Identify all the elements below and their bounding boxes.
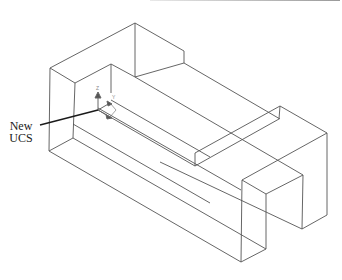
ucs-y-label: Y — [112, 94, 116, 100]
wireframe-edges — [49, 23, 327, 262]
wireframe-drawing: Z Y — [0, 0, 342, 280]
ucs-z-label: Z — [96, 85, 99, 91]
callout-leader-line — [40, 110, 98, 125]
z-axis-arrow-icon — [95, 92, 101, 98]
y-axis-arrow-icon — [107, 101, 112, 106]
new-ucs-callout: New UCS — [4, 120, 38, 144]
callout-line-2: UCS — [4, 132, 38, 144]
